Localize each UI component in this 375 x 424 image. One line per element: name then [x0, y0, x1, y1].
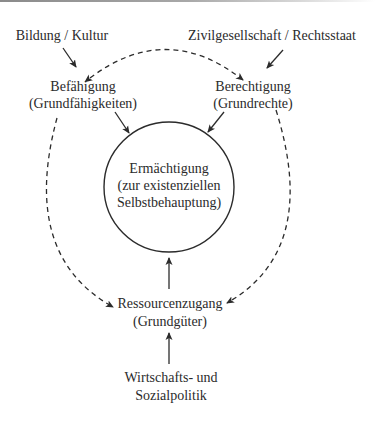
arrow-education-to-capability [63, 48, 76, 67]
dashed-arc-capability-entitlement [90, 49, 243, 80]
label-empowerment-line2: (zur existenziellen [117, 177, 220, 194]
label-empowerment-line1: Ermächtigung [129, 160, 208, 177]
label-civil-society: Zivilgesellschaft / Rechtsstaat [188, 27, 356, 44]
label-resources-subtitle: (Grundgüter) [133, 313, 207, 330]
arrow-entitlement-to-empowerment [208, 112, 224, 132]
label-resources-title: Ressourcenzugang [118, 295, 223, 312]
label-education: Bildung / Kultur [16, 27, 109, 44]
label-policy-line2: Sozialpolitik [135, 387, 207, 404]
arrow-capability-to-empowerment [115, 112, 129, 133]
label-capability-title: Befähigung [50, 78, 115, 95]
label-entitlement-title: Berechtigung [215, 78, 290, 95]
label-entitlement-subtitle: (Grundrechte) [213, 95, 292, 112]
dashed-arc-entitlement-resources [227, 110, 290, 303]
label-empowerment-line3: Selbstbehauptung) [117, 194, 221, 211]
dashed-arc-capability-resources [46, 118, 113, 307]
diagram-canvas [0, 0, 375, 424]
arrow-civil-to-entitlement [267, 50, 283, 68]
label-policy-line1: Wirtschafts- und [124, 369, 217, 386]
label-capability-subtitle: (Grundfähigkeiten) [29, 95, 137, 112]
